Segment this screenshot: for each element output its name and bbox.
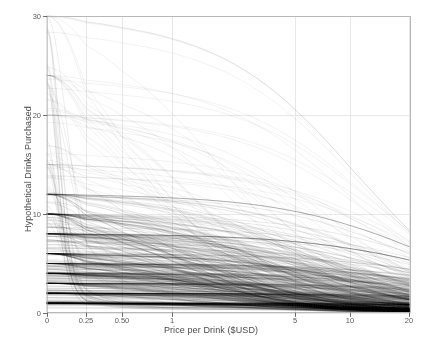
y-tick-label: 0	[23, 309, 41, 318]
y-tick-label: 30	[23, 12, 41, 21]
x-tick-label: 0.50	[115, 316, 130, 325]
demand-curve-figure: Price per Drink ($USD) Hypothetical Drin…	[0, 0, 422, 346]
y-tick-label: 10	[23, 210, 41, 219]
x-tick-label: 0.25	[79, 316, 94, 325]
x-tick-label: 20	[405, 316, 413, 325]
x-tick-label: 0	[45, 316, 49, 325]
x-tick-label: 10	[346, 316, 354, 325]
x-axis-title: Price per Drink ($USD)	[0, 325, 422, 335]
y-axis-title: Hypothetical Drinks Purchased	[23, 79, 33, 259]
x-tick-label: 5	[293, 316, 297, 325]
x-tick-label: 1	[170, 316, 174, 325]
demand-curves-plot-area	[0, 0, 422, 346]
y-tick-label: 20	[23, 111, 41, 120]
